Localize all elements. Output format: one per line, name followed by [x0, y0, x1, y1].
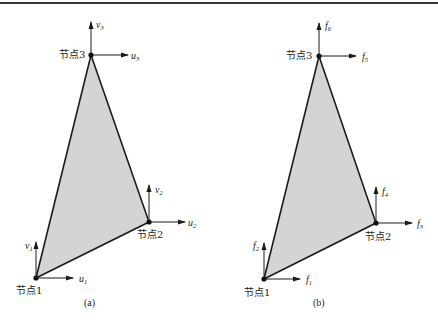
node-label: 节点3: [59, 49, 85, 60]
v1-symbol: v1: [25, 240, 33, 252]
f6-symbol: f6: [325, 20, 332, 32]
u2-symbol: u2: [188, 217, 197, 229]
v3-symbol: v3: [96, 19, 104, 31]
triangle-element-a: [36, 55, 149, 278]
f3-symbol: f3: [417, 218, 424, 230]
node-3-a: 节点3 v3 u3: [59, 19, 140, 62]
node-dot-icon: [261, 276, 266, 281]
node-label: 节点3: [286, 50, 312, 61]
node-dot-icon: [146, 219, 151, 224]
node-dot-icon: [373, 220, 378, 225]
node-label: 节点1: [244, 287, 270, 298]
node-dot-icon: [88, 52, 93, 57]
node-label: 节点1: [16, 285, 42, 296]
v2-symbol: v2: [155, 184, 163, 196]
caption-b: (b): [313, 297, 325, 309]
node-2-b: 节点2 f4 f3: [365, 186, 424, 242]
f4-symbol: f4: [382, 186, 389, 198]
panel-a: 节点3 v3 u3 节点2 v2 u2 节点1 v1 u1 (a): [16, 19, 197, 309]
f2-symbol: f2: [253, 240, 260, 252]
node-dot-icon: [316, 53, 321, 58]
caption-a: (a): [84, 297, 95, 309]
f1-symbol: f1: [306, 274, 312, 286]
triangle-element-diagram: 节点3 v3 u3 节点2 v2 u2 节点1 v1 u1 (a): [0, 0, 438, 323]
panel-b: 节点3 f6 f5 节点2 f4 f3 节点1 f2 f1 (b): [244, 20, 424, 309]
u3-symbol: u3: [131, 50, 140, 62]
triangle-element-b: [264, 56, 376, 279]
node-label: 节点2: [137, 229, 163, 240]
node-dot-icon: [33, 275, 38, 280]
node-label: 节点2: [365, 231, 391, 242]
f5-symbol: f5: [362, 51, 369, 63]
node-3-b: 节点3 f6 f5: [286, 20, 369, 63]
u1-symbol: u1: [79, 273, 87, 285]
